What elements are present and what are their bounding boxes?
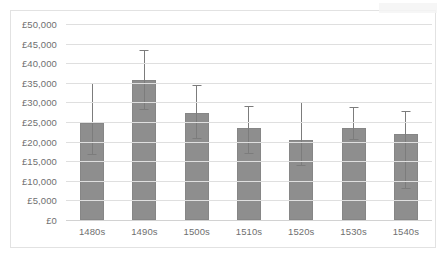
error-bar-cap-top <box>349 107 358 108</box>
error-bar-stem <box>144 50 145 110</box>
gridline <box>66 24 432 25</box>
error-bar-cap-bottom <box>192 138 201 139</box>
error-bar-cap-top <box>192 85 201 86</box>
gridline <box>66 122 432 123</box>
error-bar-cap-bottom <box>349 139 358 140</box>
error-bar-stem <box>353 107 354 141</box>
gridline <box>66 220 432 221</box>
error-bar-cap-top <box>140 50 149 51</box>
y-axis-tick-label: £30,000 <box>22 97 57 108</box>
y-axis-tick-label: £50,000 <box>22 19 57 30</box>
y-axis-labels: £0£5,000£10,000£15,000£20,000£25,000£30,… <box>11 24 61 220</box>
error-bar-cap-bottom <box>401 188 410 189</box>
y-axis-tick-label: £20,000 <box>22 136 57 147</box>
chart-frame: £0£5,000£10,000£15,000£20,000£25,000£30,… <box>10 10 436 248</box>
x-axis-tick-label: 1490s <box>131 226 157 237</box>
x-axis-tick-label: 1500s <box>184 226 210 237</box>
error-bar-cap-bottom <box>140 109 149 110</box>
error-bar-stem <box>196 85 197 139</box>
x-axis-labels: 1480s1490s1500s1510s1520s1530s1540s <box>66 224 432 246</box>
error-bar-stem <box>92 83 93 155</box>
error-bar-cap-top <box>401 111 410 112</box>
error-bar-cap-bottom <box>297 165 306 166</box>
gridline <box>66 83 432 84</box>
x-axis-tick-label: 1540s <box>393 226 419 237</box>
error-bar-cap-bottom <box>244 153 253 154</box>
error-bar <box>244 106 253 153</box>
x-axis-tick-label: 1480s <box>79 226 105 237</box>
gridline <box>66 44 432 45</box>
gridline <box>66 181 432 182</box>
y-axis-tick-label: £35,000 <box>22 77 57 88</box>
error-bar <box>349 107 358 141</box>
y-axis-tick-label: £40,000 <box>22 58 57 69</box>
error-bar <box>140 50 149 110</box>
error-bar <box>88 83 97 155</box>
x-axis-tick-label: 1520s <box>288 226 314 237</box>
gridline <box>66 200 432 201</box>
y-axis-tick-label: £0 <box>46 215 57 226</box>
y-axis-tick-label: £10,000 <box>22 175 57 186</box>
error-bar <box>297 102 306 165</box>
gridline <box>66 161 432 162</box>
plot-area <box>66 24 432 220</box>
y-axis-tick-label: £5,000 <box>27 195 57 206</box>
error-bar-stem <box>248 106 249 153</box>
gridline <box>66 63 432 64</box>
y-axis-tick-label: £15,000 <box>22 156 57 167</box>
error-bar-cap-top <box>244 106 253 107</box>
error-bar-stem <box>301 102 302 165</box>
error-bar-cap-bottom <box>88 154 97 155</box>
gridline <box>66 142 432 143</box>
y-axis-tick-label: £45,000 <box>22 38 57 49</box>
x-axis-tick-label: 1530s <box>340 226 366 237</box>
y-axis-tick-label: £25,000 <box>22 117 57 128</box>
scan-artifact <box>379 3 437 13</box>
x-axis-tick-label: 1510s <box>236 226 262 237</box>
error-bar <box>192 85 201 139</box>
gridline <box>66 102 432 103</box>
